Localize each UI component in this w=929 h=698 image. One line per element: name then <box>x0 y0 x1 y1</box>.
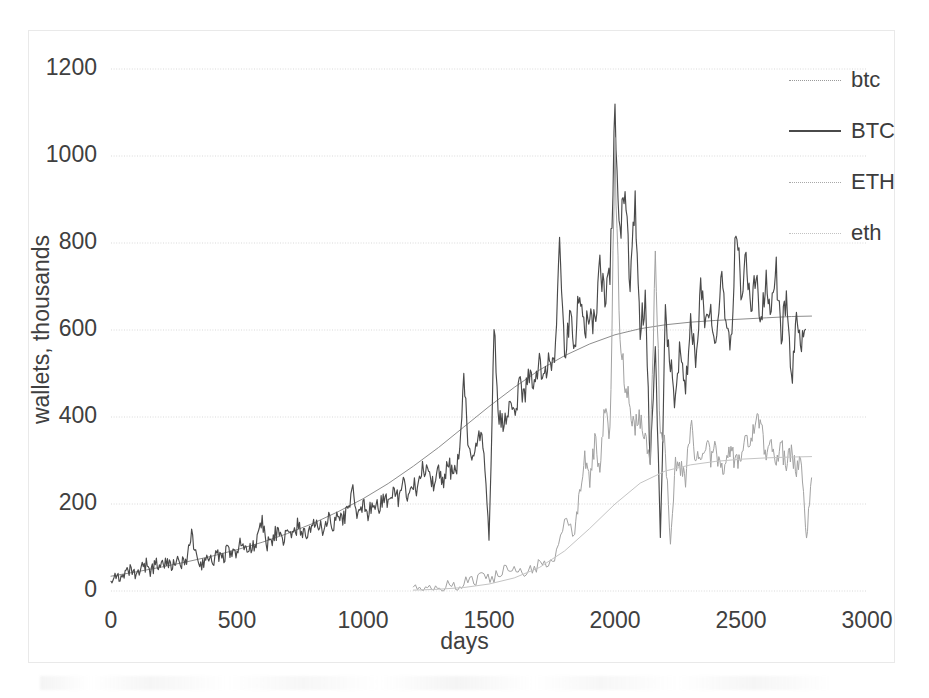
x-axis-title: days <box>0 628 929 655</box>
legend-swatch-btc-icon <box>789 80 841 81</box>
legend-label: ETH <box>851 171 895 193</box>
legend-label: eth <box>851 222 882 244</box>
y-tick-label: 1200 <box>27 54 97 81</box>
y-tick-label: 200 <box>27 489 97 516</box>
legend-item-btc[interactable]: btc <box>789 69 880 91</box>
legend-item-ETH[interactable]: ETH <box>789 171 895 193</box>
series-line-eth <box>413 457 811 591</box>
y-tick-label: 0 <box>27 576 97 603</box>
legend-label: BTC <box>851 120 895 142</box>
legend-item-eth[interactable]: eth <box>789 222 882 244</box>
chart-frame: 120010008006004002000 050010001500200025… <box>28 30 895 663</box>
y-tick-label: 600 <box>27 315 97 342</box>
legend-swatch-BTC-icon <box>789 130 841 132</box>
y-tick-label: 400 <box>27 402 97 429</box>
gridlines <box>111 69 867 591</box>
series-line-BTC <box>111 104 806 583</box>
series-group <box>111 104 812 591</box>
scan-artifact <box>40 676 890 690</box>
legend-label: btc <box>851 69 880 91</box>
legend-item-BTC[interactable]: BTC <box>789 120 895 142</box>
legend-swatch-eth-icon <box>789 233 841 234</box>
y-tick-label: 1000 <box>27 141 97 168</box>
legend-swatch-ETH-icon <box>789 182 841 183</box>
y-tick-label: 800 <box>27 228 97 255</box>
chart-plot-svg <box>29 31 896 664</box>
